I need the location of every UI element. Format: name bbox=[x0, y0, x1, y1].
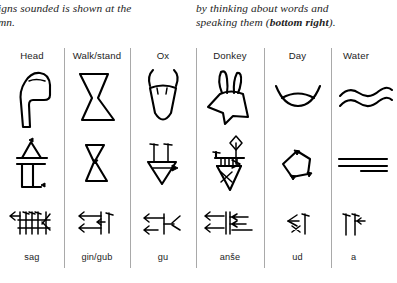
column-footer-water: a bbox=[331, 252, 397, 262]
column-footer-donkey: anše bbox=[196, 252, 264, 262]
walk-stand-pictograph-cell bbox=[64, 66, 130, 132]
caption-left-line-1: igns sounded is shown at the bbox=[0, 1, 194, 15]
head-cuneiform-cell bbox=[0, 198, 64, 250]
caption-right-line-2: speaking them (bottom right). bbox=[196, 15, 392, 29]
sign-column-ox: Ox bbox=[130, 48, 196, 276]
water-cuneiform-cell bbox=[331, 198, 397, 250]
sign-column-day: Day bbox=[264, 48, 331, 276]
caption-left-column: igns sounded is shown at the mn. bbox=[0, 1, 194, 30]
day-intermediate-cell bbox=[264, 134, 331, 196]
caption-right-line-2-prefix: speaking them ( bbox=[196, 16, 270, 28]
column-header-walk-stand: Walk/stand bbox=[64, 50, 130, 61]
column-header-head: Head bbox=[0, 50, 64, 61]
water-pictograph-cell bbox=[331, 66, 396, 132]
donkey-pictograph-icon bbox=[203, 69, 257, 129]
column-footer-head: sag bbox=[0, 252, 64, 262]
sign-column-walk-stand: Walk/stand bbox=[64, 48, 130, 276]
column-header-water: Water bbox=[331, 50, 397, 61]
column-footer-walk-stand: gin/gub bbox=[64, 252, 130, 262]
caption-left-line-2: mn. bbox=[0, 15, 194, 29]
cuneiform-sign-evolution-table: Head bbox=[0, 48, 390, 276]
ox-cuneiform-icon bbox=[140, 210, 186, 238]
day-pictograph-icon bbox=[272, 82, 324, 116]
sign-column-donkey: Donkey bbox=[196, 48, 264, 276]
caption-right-line-2-suffix: ). bbox=[329, 16, 336, 28]
head-pictograph-icon bbox=[9, 69, 55, 129]
day-intermediate-icon bbox=[279, 148, 317, 182]
donkey-cuneiform-cell bbox=[196, 198, 264, 250]
water-intermediate-icon bbox=[337, 154, 389, 176]
walk-stand-intermediate-cell bbox=[64, 134, 130, 196]
column-footer-day: ud bbox=[264, 252, 331, 262]
column-footer-ox: gu bbox=[130, 252, 196, 262]
caption-right-line-2-emphasis: bottom right bbox=[270, 16, 329, 28]
donkey-intermediate-cell bbox=[196, 134, 264, 196]
ox-pictograph-icon bbox=[139, 69, 187, 129]
head-cuneiform-icon bbox=[6, 208, 58, 240]
column-header-day: Day bbox=[264, 50, 331, 61]
sign-column-head: Head bbox=[0, 48, 64, 276]
column-header-donkey: Donkey bbox=[196, 50, 264, 61]
ox-intermediate-icon bbox=[143, 140, 183, 190]
walk-stand-cuneiform-cell bbox=[64, 198, 130, 250]
water-pictograph-icon bbox=[337, 84, 393, 114]
figure-caption: igns sounded is shown at the mn. by thin… bbox=[0, 0, 390, 46]
water-cuneiform-icon bbox=[339, 210, 373, 238]
walk-stand-intermediate-icon bbox=[80, 141, 114, 189]
head-intermediate-cell bbox=[0, 134, 64, 196]
donkey-cuneiform-icon bbox=[202, 209, 258, 239]
head-intermediate-icon bbox=[11, 137, 53, 193]
ox-intermediate-cell bbox=[130, 134, 196, 196]
day-pictograph-cell bbox=[264, 66, 331, 132]
head-pictograph-cell bbox=[0, 66, 64, 132]
donkey-intermediate-icon bbox=[208, 134, 252, 196]
column-header-ox: Ox bbox=[130, 50, 196, 61]
caption-right-column: by thinking about words and speaking the… bbox=[196, 1, 392, 30]
water-intermediate-cell bbox=[331, 134, 396, 196]
walk-stand-pictograph-icon bbox=[74, 70, 120, 128]
caption-right-line-1: by thinking about words and bbox=[196, 1, 392, 15]
walk-stand-cuneiform-icon bbox=[75, 209, 119, 239]
donkey-pictograph-cell bbox=[196, 66, 264, 132]
ox-pictograph-cell bbox=[130, 66, 196, 132]
day-cuneiform-icon bbox=[283, 210, 313, 238]
day-cuneiform-cell bbox=[264, 198, 331, 250]
ox-cuneiform-cell bbox=[130, 198, 196, 250]
sign-column-water: Water bbox=[331, 48, 390, 276]
